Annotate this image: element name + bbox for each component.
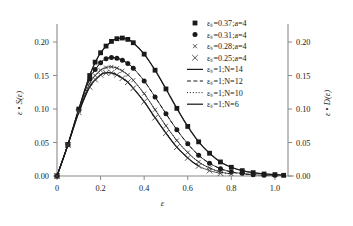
series-marker bbox=[115, 36, 120, 41]
x-axis-tick-label: 0.4 bbox=[139, 184, 150, 193]
series-marker bbox=[164, 87, 169, 92]
chart-canvas: 0.000.050.100.150.200.000.050.100.150.20… bbox=[0, 0, 353, 226]
series-marker bbox=[104, 56, 109, 61]
x-axis-tick-label: 1.0 bbox=[270, 184, 280, 193]
series-marker bbox=[98, 60, 103, 65]
series-marker bbox=[93, 60, 98, 65]
series-marker bbox=[125, 79, 131, 85]
series-marker bbox=[152, 115, 158, 121]
y-axis-right-tick-label: 0.20 bbox=[296, 38, 311, 47]
series-marker bbox=[87, 84, 93, 90]
series-marker bbox=[104, 44, 109, 49]
series-marker bbox=[142, 92, 146, 96]
y-axis-left-tick-label: 0.20 bbox=[34, 38, 49, 47]
series-line bbox=[57, 73, 199, 176]
series-marker bbox=[130, 85, 136, 91]
series-marker bbox=[229, 165, 234, 170]
series-marker bbox=[120, 75, 126, 81]
legend-swatch-filled-square bbox=[193, 21, 198, 26]
legend-label: εₛ=1;N=14 bbox=[207, 65, 243, 74]
chart-figure: 0.000.050.100.150.200.000.050.100.150.20… bbox=[0, 0, 353, 226]
series-marker bbox=[120, 36, 125, 41]
series-marker bbox=[196, 139, 201, 144]
legend-label: εₛ=0.31;a=4 bbox=[207, 31, 247, 40]
y-axis-left-tick-label: 0.00 bbox=[34, 172, 49, 181]
series-marker bbox=[185, 141, 190, 146]
legend-label: εₛ=1;N=12 bbox=[207, 77, 243, 86]
series-marker bbox=[93, 74, 97, 78]
y-axis-left-title: ε • S(ε) bbox=[14, 91, 24, 115]
series-marker bbox=[153, 108, 157, 112]
series-marker bbox=[131, 78, 135, 82]
series-marker bbox=[163, 111, 168, 116]
x-axis-title: ε bbox=[161, 198, 165, 208]
y-axis-right-tick-label: 0.10 bbox=[296, 105, 311, 114]
y-axis-right-tick-label: 0.00 bbox=[296, 172, 311, 181]
legend-label: εₛ=0.28;a=4 bbox=[207, 42, 247, 51]
y-axis-left-tick-label: 0.05 bbox=[34, 139, 49, 148]
series-marker bbox=[153, 94, 158, 99]
series-marker bbox=[163, 130, 169, 136]
series-marker bbox=[141, 99, 147, 105]
series-marker bbox=[262, 173, 267, 178]
series-marker bbox=[98, 50, 103, 55]
series-marker bbox=[109, 39, 114, 44]
series-marker bbox=[207, 151, 212, 156]
y-axis-left-tick-label: 0.15 bbox=[34, 72, 49, 81]
series-marker bbox=[207, 168, 213, 174]
series-marker bbox=[120, 69, 124, 73]
series-marker bbox=[186, 151, 190, 155]
series-connector bbox=[57, 73, 220, 176]
legend-swatch-cross bbox=[192, 55, 198, 61]
series-marker bbox=[207, 161, 212, 166]
series-marker bbox=[174, 106, 179, 111]
x-axis-tick-label: 0 bbox=[55, 184, 59, 193]
y-axis-right-title: ε • D(ε) bbox=[322, 90, 332, 116]
series-marker bbox=[174, 127, 179, 132]
legend-swatch-filled-circle bbox=[193, 32, 198, 37]
series-marker bbox=[153, 68, 158, 73]
series-marker bbox=[218, 171, 224, 177]
series-marker bbox=[164, 124, 168, 128]
series-marker bbox=[98, 72, 104, 78]
series-marker bbox=[93, 67, 98, 72]
series-marker bbox=[126, 73, 130, 77]
y-axis-right-tick-label: 0.15 bbox=[296, 72, 311, 81]
series-marker bbox=[114, 72, 120, 78]
series-marker bbox=[240, 171, 245, 176]
series-marker bbox=[281, 173, 286, 178]
series-marker bbox=[196, 163, 202, 169]
series-marker bbox=[142, 78, 147, 83]
series-marker bbox=[131, 40, 136, 45]
series-marker bbox=[175, 139, 179, 143]
series-marker bbox=[174, 144, 180, 150]
series-marker bbox=[196, 153, 201, 158]
series-marker bbox=[197, 160, 201, 164]
legend-label: εₛ=1;N=6 bbox=[207, 100, 239, 109]
series-marker bbox=[114, 56, 119, 61]
legend-label: εₛ=0.25;a=4 bbox=[207, 54, 247, 63]
series-marker bbox=[92, 77, 98, 83]
series-marker bbox=[109, 55, 114, 60]
x-axis-tick-label: 0.6 bbox=[183, 184, 193, 193]
series-marker bbox=[87, 76, 92, 81]
series-marker bbox=[251, 172, 256, 177]
legend-swatch-small-cross bbox=[193, 44, 197, 48]
series-marker bbox=[131, 66, 136, 71]
series-marker bbox=[218, 160, 223, 165]
x-axis-tick-label: 0.2 bbox=[95, 184, 105, 193]
series-marker bbox=[125, 61, 130, 66]
legend-label: εₛ=1;N=10 bbox=[207, 89, 243, 98]
series-line bbox=[57, 38, 286, 176]
series-marker bbox=[125, 37, 130, 42]
series-marker bbox=[185, 155, 191, 161]
x-axis-tick-label: 0.8 bbox=[226, 184, 236, 193]
series-marker bbox=[142, 52, 147, 57]
series-connector bbox=[57, 38, 284, 176]
legend-label: εₛ=0.37;a=4 bbox=[207, 19, 247, 28]
y-axis-right-tick-label: 0.05 bbox=[296, 139, 311, 148]
series-marker bbox=[272, 173, 277, 178]
y-axis-left-tick-label: 0.10 bbox=[34, 105, 49, 114]
series-marker bbox=[185, 124, 190, 129]
series-marker bbox=[99, 68, 103, 72]
